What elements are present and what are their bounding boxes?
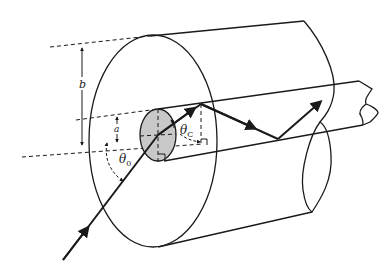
axis-dashed bbox=[22, 144, 203, 157]
b-label: b bbox=[79, 78, 86, 91]
outer-bottom-edge bbox=[158, 212, 312, 247]
core-top-edge bbox=[158, 81, 359, 109]
core-bottom-edge bbox=[164, 125, 363, 161]
incident-ray-arrow bbox=[63, 230, 86, 260]
reflected-ray-1-arrow bbox=[201, 104, 252, 127]
core-cylinder bbox=[158, 81, 378, 161]
core-break-inner bbox=[360, 104, 366, 125]
fiber-diagram: b a θ0 θC bbox=[0, 0, 391, 271]
diagram-canvas: b a θ0 θC bbox=[0, 0, 391, 271]
dimension-arrows bbox=[82, 48, 117, 145]
outer-cylinder bbox=[89, 21, 334, 247]
light-ray bbox=[63, 104, 318, 260]
b-top-dashed bbox=[50, 36, 150, 47]
theta0-label: θ0 bbox=[119, 152, 131, 168]
reference-lines bbox=[22, 36, 203, 162]
outer-far-edge-upper bbox=[304, 21, 334, 122]
normal-right-angle bbox=[201, 139, 207, 145]
a-label: a bbox=[114, 124, 119, 134]
thetaC-label: θC bbox=[180, 123, 193, 139]
outer-top-edge bbox=[150, 21, 304, 36]
